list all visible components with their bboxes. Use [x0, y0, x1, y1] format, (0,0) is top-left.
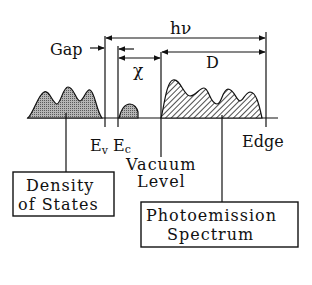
chi-label: χ [133, 60, 143, 80]
photoemission-diagram: Gap hν χ D Ev Ec Vacuum Level Edge Densi… [0, 0, 312, 285]
photoemission-spectrum-curve [161, 80, 262, 118]
ev-label: Ev [90, 136, 109, 157]
hv-label: hν [170, 18, 191, 38]
edge-label: Edge [242, 132, 284, 151]
d-label: D [206, 53, 219, 72]
vacuum-level-label-line2: Level [137, 172, 186, 191]
gap-label: Gap [50, 40, 83, 59]
dos-box-line1: Density [26, 176, 94, 195]
conduction-band-dos [119, 104, 138, 118]
pes-box-line1: Photoemission [146, 206, 277, 225]
pes-box-line2: Spectrum [167, 225, 254, 244]
ec-label: Ec [113, 136, 131, 156]
valence-band-dos [28, 87, 102, 118]
dos-box-line2: of States [18, 195, 99, 214]
